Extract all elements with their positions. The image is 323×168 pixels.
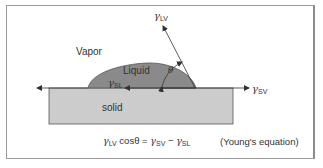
solid-substrate	[49, 88, 233, 124]
theta-label: θ	[168, 66, 173, 75]
vapor-label: Vapor	[76, 47, 102, 57]
youngs-equation: γLV cosθ = γSV − γSL	[103, 136, 190, 147]
gamma-lv-label: γLV	[154, 11, 168, 22]
solid-label: solid	[102, 103, 123, 113]
equation-name: (Young's equation)	[220, 137, 299, 147]
gamma-sl-label: γSL	[108, 78, 123, 89]
liquid-label: Liquid	[123, 66, 150, 76]
gamma-sv-label: γSV	[252, 84, 267, 95]
